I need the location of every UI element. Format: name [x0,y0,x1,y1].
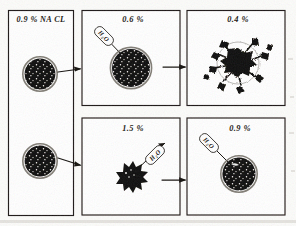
osmosis-diagram-figure: 0.9 % NA CL 0.6 % H₂O [0,0,296,226]
paper-grain [0,0,296,226]
diagram-canvas: 0.9 % NA CL 0.6 % H₂O [0,0,296,226]
